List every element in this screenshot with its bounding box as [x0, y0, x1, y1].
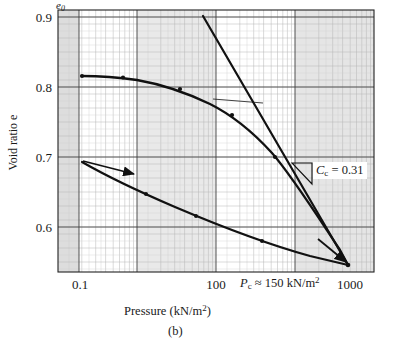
- x-axis-title-close: ): [207, 304, 211, 318]
- e0-axis-marker: e0: [56, 0, 65, 13]
- x-tick-1000: 1000: [328, 277, 372, 293]
- x-axis-title-text: Pressure (kN/m: [124, 304, 202, 318]
- e0-subscript: 0: [61, 4, 65, 13]
- x-tick-100: 100: [196, 277, 236, 293]
- figure-caption: (b): [168, 324, 183, 339]
- figure-root: e0 0.9 0.8 0.7 0.6 Void ratio e 0.1 100 …: [0, 0, 393, 344]
- pc-annotation: Pc ≈ 150 kN/m2: [240, 276, 320, 291]
- cc-value: = 0.31: [328, 163, 363, 177]
- y-tick-0-6: 0.6: [12, 220, 52, 236]
- y-axis-title: Void ratio e: [6, 83, 21, 203]
- pc-symbol: P: [240, 276, 248, 290]
- cc-annotation: Cc = 0.31: [313, 162, 367, 179]
- pc-text: ≈ 150 kN/m: [252, 276, 315, 290]
- x-axis-title: Pressure (kN/m2): [124, 303, 211, 319]
- pc-superscript: 2: [315, 275, 320, 285]
- y-axis-title-text: Void ratio e: [6, 115, 20, 171]
- x-tick-0-1: 0.1: [60, 277, 100, 293]
- y-tick-0-9: 0.9: [12, 10, 52, 26]
